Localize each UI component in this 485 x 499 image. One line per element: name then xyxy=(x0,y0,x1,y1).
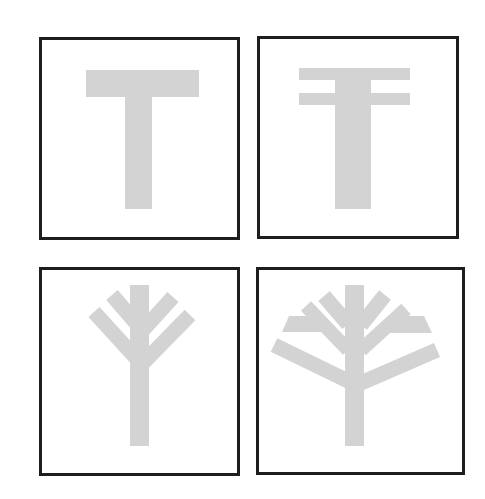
full-tree-icon xyxy=(274,285,437,446)
t-shape-icon xyxy=(86,70,199,209)
simple-tree-icon xyxy=(94,285,190,446)
figure-canvas xyxy=(0,0,485,499)
double-bar-t-icon xyxy=(299,68,410,209)
